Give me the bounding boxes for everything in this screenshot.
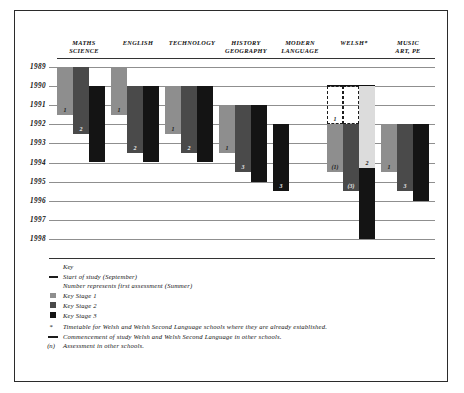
gridline-1996 xyxy=(49,201,435,202)
key-label-2: Number represents first assessment (Summ… xyxy=(63,282,192,289)
year-label-1995: 1995 xyxy=(15,178,46,186)
key-marker-star: * xyxy=(41,323,61,330)
bar-number: 1 xyxy=(57,107,73,113)
bar-2-ks3 xyxy=(143,86,159,162)
gridline-1990 xyxy=(49,86,435,87)
bar-number: 1 xyxy=(111,107,127,113)
bar-3-ks1: 1 xyxy=(165,86,181,134)
key-label-4: Key Stage 2 xyxy=(63,302,97,309)
bar-6-ks3 xyxy=(359,168,375,239)
timeline-plot: 1989199019911992199319941995199619971998… xyxy=(15,11,449,261)
bar-number: 1 xyxy=(381,164,397,170)
key-swatch-ks1 xyxy=(50,293,56,299)
bar-5-ks3: 3 xyxy=(273,124,289,191)
year-label-1991: 1991 xyxy=(15,101,46,109)
key-label-7: Commencement of study Welsh and Welsh Se… xyxy=(63,333,282,340)
bar-6-ks2: (3) xyxy=(343,124,359,191)
key-label-1: Start of study (September) xyxy=(63,273,137,280)
bar-4-ks1: 1 xyxy=(219,105,235,153)
key-marker-paren: (n) xyxy=(41,342,61,349)
bar-number: (1) xyxy=(327,164,343,170)
bar-number: 1 xyxy=(328,116,342,122)
year-label-1992: 1992 xyxy=(15,120,46,128)
key-label-5: Key Stage 3 xyxy=(63,312,97,319)
chart-key: KeyStart of study (September)Number repr… xyxy=(15,261,449,371)
year-label-1990: 1990 xyxy=(15,82,46,90)
key-rule xyxy=(49,258,435,259)
bar-7-ks1: 1 xyxy=(381,124,397,172)
bar-2-ks2: 2 xyxy=(127,86,143,153)
year-label-1998: 1998 xyxy=(15,235,46,243)
bar-number: 1 xyxy=(219,145,235,151)
bar-number: (3) xyxy=(343,183,359,189)
dashed-bar-6-1: 1 xyxy=(327,86,343,124)
bar-7-ks2: 3 xyxy=(397,124,413,191)
year-label-1989: 1989 xyxy=(15,63,46,71)
bar-1-ks1: 1 xyxy=(57,67,73,115)
key-label-3: Key Stage 1 xyxy=(63,292,97,299)
bar-4-ks2: 3 xyxy=(235,105,251,172)
bar-number: 2 xyxy=(181,145,197,151)
key-swatch-ks3 xyxy=(50,312,56,318)
bar-1-ks3 xyxy=(89,86,105,162)
key-title: Key xyxy=(63,263,73,270)
bar-3-ks2: 2 xyxy=(181,86,197,153)
bar-number: 1 xyxy=(165,126,181,132)
bar-number: 2 xyxy=(359,160,375,166)
bar-6-pale: 2 xyxy=(359,86,375,168)
year-label-1996: 1996 xyxy=(15,197,46,205)
bar-number: 2 xyxy=(127,145,143,151)
bar-number: 2 xyxy=(73,126,89,132)
chart-frame: MATHSSCIENCEENGLISHTECHNOLOGYHISTORYGEOG… xyxy=(14,10,448,382)
dashed-bar-6-2 xyxy=(343,86,359,124)
bar-7-ks3 xyxy=(413,124,429,200)
gridline-1997 xyxy=(49,220,435,221)
bar-1-ks2: 2 xyxy=(73,67,89,134)
bar-6-ks1: (1) xyxy=(327,124,343,172)
bar-4-ks3 xyxy=(251,105,267,181)
gridline-1995 xyxy=(49,182,435,183)
gridline-1998 xyxy=(49,239,435,240)
year-label-1993: 1993 xyxy=(15,139,46,147)
key-label-6: Timetable for Welsh and Welsh Second Lan… xyxy=(63,323,327,330)
bar-3-ks3 xyxy=(197,86,213,162)
year-label-1997: 1997 xyxy=(15,216,46,224)
bar-number: 3 xyxy=(235,164,251,170)
gridline-1989 xyxy=(49,67,435,68)
key-marker-start-of-study xyxy=(49,276,58,278)
key-marker-dashed xyxy=(48,336,58,338)
key-label-8: Assessment in other schools. xyxy=(63,342,144,349)
bar-2-ks1: 1 xyxy=(111,67,127,115)
bar-number: 3 xyxy=(397,183,413,189)
bar-number: 3 xyxy=(273,183,289,189)
year-label-1994: 1994 xyxy=(15,159,46,167)
key-swatch-ks2 xyxy=(50,302,56,308)
